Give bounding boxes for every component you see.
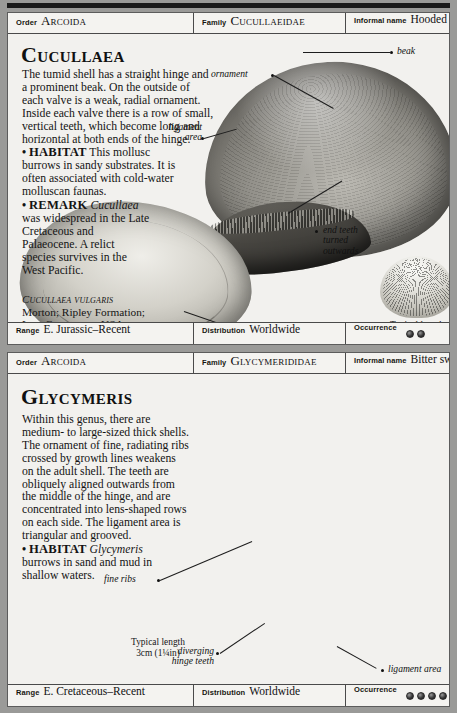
occurrence-label: Occurrence (354, 685, 397, 694)
entry-header-cucullaea: Order Arcoida Family Cucullaeidae Inform… (8, 13, 449, 34)
informal-name-cell: Informal name Hooded ark shell (346, 13, 449, 33)
annotation-end-teeth: end teeth turned outwards (323, 225, 379, 256)
habitat-genus: Glycymeris (90, 543, 143, 556)
order-label: Order (16, 358, 37, 367)
order-cell: Order Arcoida (8, 353, 194, 373)
family-label: Family (202, 18, 226, 27)
occurrence-dot-icon (417, 330, 425, 338)
range-label: Range (16, 688, 39, 697)
occurrence-rating-icons (406, 692, 449, 700)
specimen-caption-cucullaea: Cucullaea vulgaris Morton; Ripley Format… (22, 293, 154, 322)
page-top-rule (7, 3, 450, 8)
remark-term: REMARK (29, 198, 88, 212)
leader-dot-ligament-area (381, 669, 384, 672)
annotation-ligament-area: ligament area (388, 664, 441, 674)
entry-body-glycymeris: Glycymeris Within this genus, there are … (8, 374, 449, 684)
entry-panel-cucullaea: Order Arcoida Family Cucullaeidae Inform… (7, 12, 450, 345)
leader-dot-ornament (271, 74, 274, 77)
leader-beak (303, 52, 390, 53)
book-page: Order Arcoida Family Cucullaeidae Inform… (0, 0, 457, 713)
remark-genus: Cucullaea (91, 199, 139, 212)
occurrence-label: Occurrence (354, 323, 397, 332)
distribution-label: Distribution (202, 688, 245, 697)
occurrence-cell: Occurrence (346, 323, 449, 344)
order-cell: Order Arcoida (8, 13, 194, 33)
leader-dot-beak (390, 51, 393, 54)
distribution-value: Worldwide (249, 685, 300, 697)
entry-footer-cucullaea: Range E. Jurassic–Recent Distribution Wo… (8, 322, 449, 344)
occurrence-dot-icon (439, 692, 447, 700)
informal-name-label: Informal name (354, 356, 407, 365)
occurrence-dot-icon (406, 330, 414, 338)
occurrence-cell: Occurrence (346, 685, 449, 706)
remark-text: was widespread in the Late Cretaceous an… (22, 212, 149, 277)
page-title-cucullaea: Cucullaea (21, 44, 125, 66)
leader-ligament-area (337, 646, 377, 669)
specimen-details: Morton; Ripley Formation; Late Cretaceou… (22, 306, 145, 322)
entry-header-glycymeris: Order Arcoida Family Glycymerididae Info… (8, 353, 449, 374)
occurrence-dot-icon (406, 692, 414, 700)
informal-name-value: Bitter sweet (411, 353, 449, 365)
informal-name-cell: Informal name Bitter sweet (346, 353, 449, 373)
family-cell: Family Cucullaeidae (194, 13, 346, 33)
family-cell: Family Glycymerididae (194, 353, 346, 373)
habitat-term: HABITAT (29, 145, 87, 159)
range-cell: Range E. Cretaceous–Recent (8, 685, 194, 706)
annotation-ornament: ornament (211, 69, 248, 79)
range-value: E. Jurassic–Recent (43, 323, 130, 335)
distribution-cell: Distribution Worldwide (194, 685, 346, 706)
habitat-bullet: • (22, 543, 26, 556)
annotation-beak: beak (397, 46, 415, 56)
order-value: Arcoida (41, 13, 86, 29)
entry-body-cucullaea: beak ornament ligament area end teeth tu… (8, 34, 449, 322)
scale-value: 3cm (1¼in) (136, 648, 180, 658)
occurrence-rating-icons (406, 330, 425, 338)
habitat-term: HABITAT (29, 542, 87, 556)
habitat-bullet: • (22, 146, 26, 159)
informal-name-label: Informal name (354, 16, 407, 25)
leader-diverging-hinge-teeth (220, 623, 265, 654)
annotation-fine-ribs: fine ribs (104, 574, 136, 584)
range-label: Range (16, 326, 39, 335)
order-label: Order (16, 18, 37, 27)
range-cell: Range E. Jurassic–Recent (8, 323, 194, 344)
occurrence-dot-icon (417, 692, 425, 700)
page-title-glycymeris: Glycymeris (21, 386, 132, 408)
distribution-label: Distribution (202, 326, 245, 335)
scale-drawing-cucullaea (380, 256, 449, 318)
description-glycymeris: Within this genus, there are medium- to … (22, 414, 190, 583)
family-value: Cucullaeidae (230, 13, 305, 29)
order-value: Arcoida (41, 353, 86, 369)
description-cucullaea: The tumid shell has a straight hinge and… (22, 69, 214, 278)
family-label: Family (202, 358, 226, 367)
occurrence-dot-icon (428, 692, 436, 700)
remark-bullet: • (22, 199, 26, 212)
family-value: Glycymerididae (230, 353, 316, 369)
entry-panel-glycymeris: Order Arcoida Family Glycymerididae Info… (7, 352, 450, 707)
specimen-species-name: Cucullaea vulgaris (22, 293, 154, 306)
scale-caption-glycymeris: Typical length 3cm (1¼in) (115, 637, 201, 659)
description-intro: The tumid shell has a straight hinge and… (22, 68, 213, 146)
leader-dot-diverging-hinge-teeth (216, 652, 219, 655)
distribution-cell: Distribution Worldwide (194, 323, 346, 344)
entry-footer-glycymeris: Range E. Cretaceous–Recent Distribution … (8, 684, 449, 706)
scale-label: Typical length (131, 637, 185, 647)
distribution-value: Worldwide (249, 323, 300, 335)
range-value: E. Cretaceous–Recent (43, 685, 145, 697)
informal-name-value: Hooded ark shell (411, 13, 449, 25)
description-intro: Within this genus, there are medium- to … (22, 413, 189, 542)
